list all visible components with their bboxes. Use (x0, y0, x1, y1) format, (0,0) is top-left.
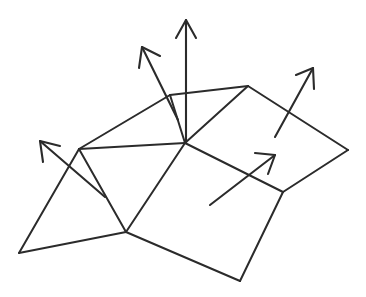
e-bottomleft-bottom (126, 232, 240, 281)
normal-vectors-group (40, 20, 314, 205)
surface-mesh-diagram (0, 0, 366, 297)
e-bottom-rightlower (240, 192, 283, 281)
normal-upper-left-head (139, 47, 160, 68)
e-rightouter-rightlower (283, 150, 348, 192)
e-center-bottomleft (126, 143, 185, 232)
e-center-topright (185, 86, 248, 143)
normal-lower-right-shaft (210, 155, 275, 205)
normal-right-shaft (275, 68, 313, 137)
e-leftridge-bottomleft (79, 149, 126, 232)
normal-left-arrow-icon (40, 141, 105, 197)
e-center-rightlower (185, 143, 283, 192)
normal-left-shaft (40, 141, 105, 197)
e-leftridge-center (79, 143, 185, 149)
normal-right-arrow-icon (275, 68, 314, 137)
e-leftridge-upperridge (79, 95, 170, 149)
e-leftouter-leftridge (19, 149, 79, 253)
figure-container (0, 0, 366, 297)
mesh-edges-group (19, 86, 348, 281)
e-leftouter-bottomleft (19, 232, 126, 253)
e-upperridge-topright (170, 86, 248, 95)
